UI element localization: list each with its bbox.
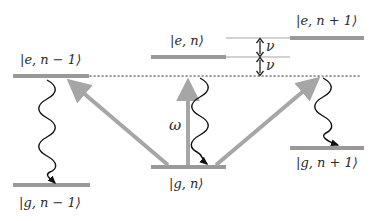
decay-left-wavy-icon	[39, 80, 56, 183]
label-omega: ω	[169, 116, 181, 134]
label-g-n-plus-1: |g, n + 1⟩	[296, 155, 358, 170]
decay-center-wavy-icon	[191, 78, 208, 164]
blue-sideband-arrow	[216, 83, 313, 165]
decay-right-wavy-icon	[315, 78, 338, 145]
label-e-n-plus-1: |e, n + 1⟩	[296, 13, 357, 28]
label-nu-upper: ν	[266, 38, 275, 54]
label-nu-lower: ν	[266, 57, 275, 73]
label-e-n: |e, n⟩	[170, 33, 204, 48]
label-g-n-minus-1: |g, n − 1⟩	[19, 195, 81, 210]
red-sideband-arrow	[74, 85, 168, 165]
spacing-arrow-lower-icon	[257, 58, 264, 76]
spacing-arrow-upper-icon	[257, 39, 264, 57]
label-g-n: |g, n⟩	[169, 176, 203, 191]
label-e-n-minus-1: |e, n − 1⟩	[20, 52, 81, 67]
energy-level-diagram: |e, n − 1⟩ |e, n⟩ |e, n + 1⟩ |g, n − 1⟩ …	[0, 0, 377, 221]
